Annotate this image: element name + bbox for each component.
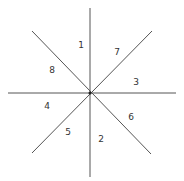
sector-label-5: 5 [65, 128, 71, 137]
sector-label-8: 8 [49, 66, 55, 75]
radial-diagram [0, 0, 184, 181]
sector-label-7: 7 [114, 48, 120, 57]
sector-label-2: 2 [98, 135, 104, 144]
sector-label-6: 6 [128, 113, 134, 122]
sector-label-1: 1 [78, 41, 84, 50]
center-point [89, 92, 92, 95]
sector-label-3: 3 [133, 78, 139, 87]
sector-label-4: 4 [44, 102, 50, 111]
